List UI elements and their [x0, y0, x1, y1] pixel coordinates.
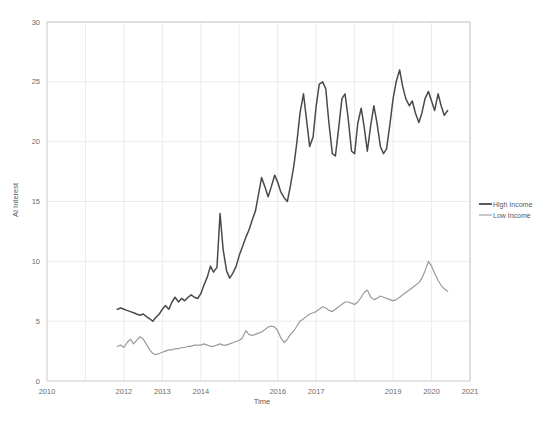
x-tick-2010: 2010 [39, 387, 56, 396]
chart-container: 051015202530 201020122013201420162017201… [0, 0, 550, 421]
legend-label-low-income: Low Income [493, 212, 531, 219]
x-tick-2016: 2016 [269, 387, 286, 396]
y-tick-30: 30 [32, 18, 40, 27]
line-chart: 051015202530 201020122013201420162017201… [0, 0, 550, 421]
y-tick-10: 10 [32, 257, 40, 266]
x-tick-2021: 2021 [462, 387, 479, 396]
x-axis-title: Time [254, 397, 270, 406]
x-tick-2012: 2012 [116, 387, 133, 396]
x-tick-2017: 2017 [308, 387, 325, 396]
y-tick-5: 5 [36, 317, 40, 326]
chart-background [0, 0, 550, 421]
y-tick-20: 20 [32, 137, 40, 146]
y-tick-25: 25 [32, 77, 40, 86]
x-tick-2013: 2013 [154, 387, 171, 396]
y-tick-0: 0 [36, 377, 40, 386]
y-tick-15: 15 [32, 197, 40, 206]
legend-label-high-income: High Income [493, 201, 532, 209]
x-tick-2020: 2020 [423, 387, 440, 396]
x-tick-2019: 2019 [385, 387, 402, 396]
y-axis-title: AI Interest [11, 182, 20, 217]
x-tick-2014: 2014 [192, 387, 209, 396]
